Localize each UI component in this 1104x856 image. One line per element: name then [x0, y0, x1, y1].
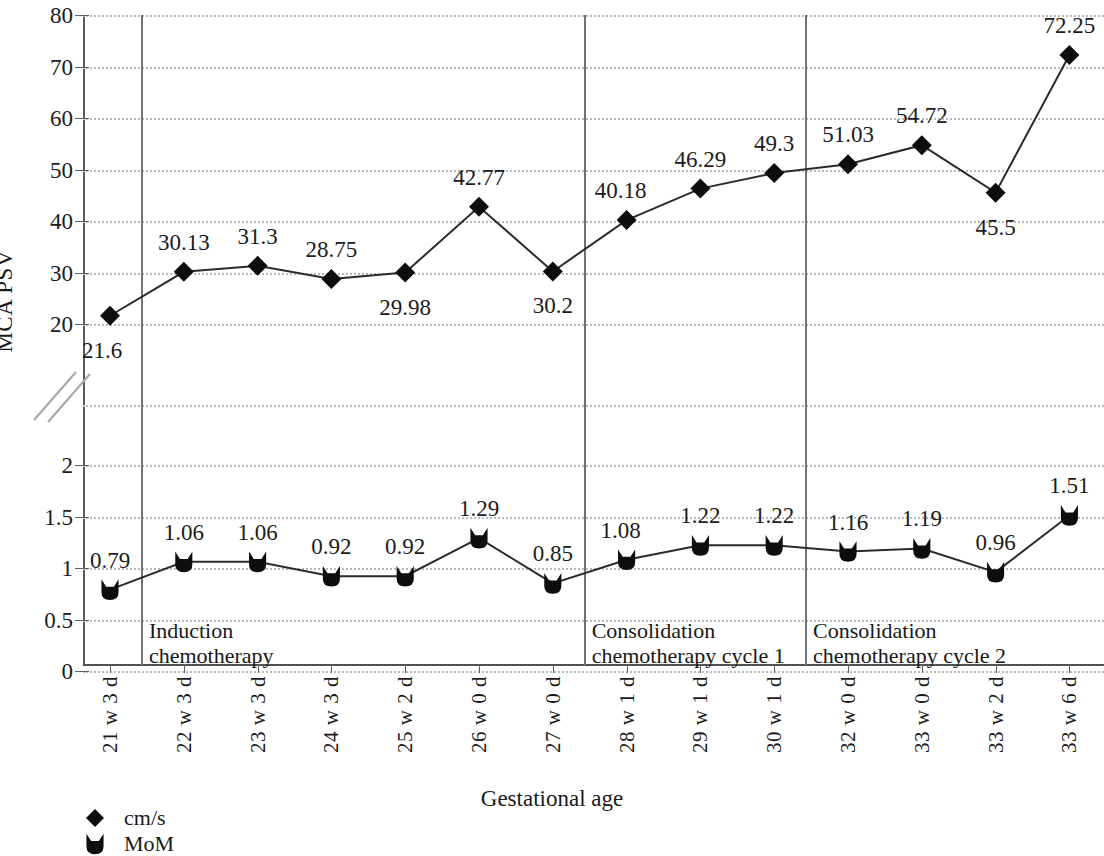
x-tick-mark	[922, 664, 923, 673]
data-point-marker-shield[interactable]	[323, 566, 340, 587]
data-point-label: 1.51	[1049, 474, 1089, 497]
y-tick-label: 0	[62, 660, 74, 683]
y-tick-label: 40	[50, 210, 73, 233]
data-point-label: 1.22	[754, 504, 794, 527]
data-point-label: 28.75	[306, 237, 358, 260]
data-point-label: 72.25	[1044, 13, 1096, 36]
legend-marker-diamond-icon	[80, 806, 110, 830]
data-point-label: 31.3	[237, 224, 277, 247]
data-point-label: 1.22	[680, 504, 720, 527]
data-point-marker-diamond[interactable]	[912, 135, 932, 155]
x-tick-label: 33 w 0 d	[911, 676, 932, 753]
data-point-marker-shield[interactable]	[470, 528, 487, 549]
phase-annotation: Consolidation chemotherapy cycle 2	[813, 619, 1006, 668]
data-point-marker-shield[interactable]	[839, 541, 856, 562]
data-point-marker-shield[interactable]	[544, 573, 561, 594]
data-point-label: 49.3	[754, 132, 794, 155]
data-point-label: 46.29	[675, 147, 727, 170]
data-point-marker-diamond[interactable]	[764, 163, 784, 183]
data-point-marker-diamond[interactable]	[321, 269, 341, 289]
y-tick-label: 50	[50, 158, 73, 181]
x-tick-label: 27 w 0 d	[542, 676, 563, 753]
y-tick-label: 1.5	[44, 505, 73, 528]
x-tick-label: 29 w 1 d	[690, 676, 711, 753]
x-tick-mark	[627, 664, 628, 673]
x-tick-mark	[331, 664, 332, 673]
gridline	[83, 671, 1104, 673]
data-point-label: 42.77	[453, 165, 505, 188]
data-point-label: 1.29	[459, 497, 499, 520]
legend-label: MoM	[124, 833, 174, 855]
data-point-label: 40.18	[595, 179, 647, 202]
data-point-marker-shield[interactable]	[618, 549, 635, 570]
data-point-marker-shield[interactable]	[692, 535, 709, 556]
data-point-label: 0.96	[975, 531, 1015, 554]
x-tick-label: 32 w 0 d	[838, 676, 859, 753]
legend-item[interactable]: MoM	[80, 831, 174, 856]
data-point-marker-shield[interactable]	[913, 538, 930, 559]
y-tick-label: 1	[62, 557, 74, 580]
data-point-label: 54.72	[896, 104, 948, 127]
data-point-label: 1.16	[828, 510, 868, 533]
plot-area: 8070605040302021.510.50 21.630.1331.328.…	[83, 15, 1104, 665]
x-tick-mark	[258, 664, 259, 673]
x-tick-label: 26 w 0 d	[469, 676, 490, 753]
data-point-marker-diamond[interactable]	[986, 183, 1006, 203]
data-point-label: 0.92	[311, 535, 351, 558]
x-tick-label: 33 w 2 d	[985, 676, 1006, 753]
data-point-marker-diamond[interactable]	[100, 306, 120, 326]
x-tick-label: 25 w 2 d	[395, 676, 416, 753]
x-tick-mark	[405, 664, 406, 673]
y-axis-title: MCA PSV	[0, 250, 18, 353]
y-tick-label: 70	[50, 55, 73, 78]
y-tick-label: 30	[50, 261, 73, 284]
data-point-marker-diamond[interactable]	[1059, 45, 1079, 65]
data-point-marker-diamond[interactable]	[248, 256, 268, 276]
x-tick-mark	[184, 664, 185, 673]
x-tick-mark	[700, 664, 701, 673]
series-line-cm-s	[110, 55, 1069, 316]
y-tick-label: 2	[62, 454, 74, 477]
data-point-label: 29.98	[379, 295, 431, 318]
x-tick-mark	[774, 664, 775, 673]
data-point-label: 51.03	[822, 123, 874, 146]
legend-label: cm/s	[124, 807, 166, 829]
x-tick-label: 30 w 1 d	[764, 676, 785, 753]
x-tick-label: 21 w 3 d	[100, 676, 121, 753]
phase-annotation: Consolidation chemotherapy cycle 1	[592, 619, 785, 668]
y-tick-label: 20	[50, 313, 73, 336]
data-point-label: 1.08	[600, 518, 640, 541]
data-point-label: 0.92	[385, 535, 425, 558]
y-tick-label: 0.5	[44, 608, 73, 631]
data-point-marker-diamond[interactable]	[174, 262, 194, 282]
x-tick-label: 28 w 1 d	[616, 676, 637, 753]
y-tick-label: 60	[50, 107, 73, 130]
data-point-marker-shield[interactable]	[101, 579, 118, 600]
phase-annotation: Induction chemotherapy	[149, 619, 274, 668]
chart-root: MCA PSV 8070605040302021.510.50 21.630.1…	[0, 0, 1104, 856]
data-point-marker-diamond[interactable]	[617, 210, 637, 230]
x-tick-label: 24 w 3 d	[321, 676, 342, 753]
data-point-label: 1.06	[237, 520, 277, 543]
data-point-marker-shield[interactable]	[397, 566, 414, 587]
x-tick-label: 33 w 6 d	[1059, 676, 1080, 753]
x-tick-mark	[479, 664, 480, 673]
x-tick-mark	[110, 664, 111, 673]
data-point-marker-shield[interactable]	[175, 551, 192, 572]
series-layer	[83, 15, 1104, 665]
data-point-marker-shield[interactable]	[987, 562, 1004, 583]
x-tick-mark	[1069, 664, 1070, 673]
chart-legend: cm/sMoM	[80, 805, 174, 856]
data-point-label: 45.5	[975, 215, 1015, 238]
data-point-marker-shield[interactable]	[766, 535, 783, 556]
legend-item[interactable]: cm/s	[80, 805, 174, 831]
data-point-label: 30.13	[158, 230, 210, 253]
legend-marker-shield-icon	[80, 832, 110, 856]
data-point-marker-diamond[interactable]	[690, 179, 710, 199]
data-point-marker-shield[interactable]	[249, 551, 266, 572]
x-tick-mark	[553, 664, 554, 673]
data-point-marker-diamond[interactable]	[838, 154, 858, 174]
data-point-marker-shield[interactable]	[1061, 505, 1078, 526]
data-point-label: 0.85	[533, 542, 573, 565]
x-tick-label: 22 w 3 d	[173, 676, 194, 753]
